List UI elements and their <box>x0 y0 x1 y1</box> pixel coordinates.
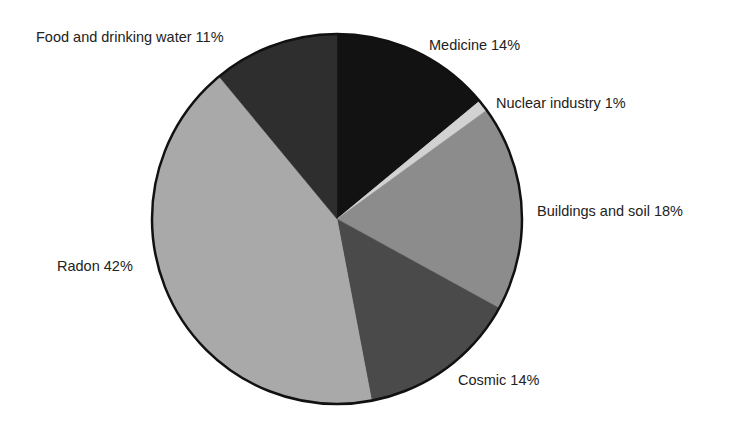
label-food-and-drinking-water: Food and drinking water 11% <box>36 30 224 45</box>
label-cosmic: Cosmic 14% <box>458 373 539 388</box>
label-nuclear-industry: Nuclear industry 1% <box>496 96 626 111</box>
pie-slices <box>152 34 522 404</box>
label-medicine: Medicine 14% <box>429 38 520 53</box>
pie-chart: Medicine 14% Nuclear industry 1% Buildin… <box>0 0 747 426</box>
label-buildings-and-soil: Buildings and soil 18% <box>537 204 683 219</box>
label-radon: Radon 42% <box>57 259 133 274</box>
